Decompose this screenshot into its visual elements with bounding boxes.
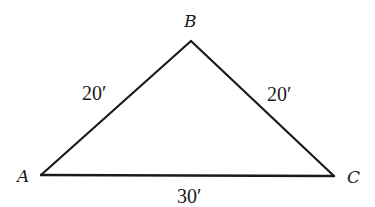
side-ab-length-label: 20′ (82, 83, 106, 103)
triangle-diagram: A B C 20′ 20′ 30′ (0, 0, 375, 207)
side-bc-length-label: 20′ (267, 84, 291, 104)
side-ac-length-label: 30′ (177, 186, 201, 206)
vertex-a-label: A (17, 168, 29, 185)
triangle-figure (0, 0, 375, 207)
side-ab-line (41, 41, 191, 175)
side-bc-line (191, 41, 334, 176)
vertex-c-label: C (347, 169, 360, 186)
side-ac-line (41, 175, 334, 176)
vertex-b-label: B (184, 13, 197, 30)
